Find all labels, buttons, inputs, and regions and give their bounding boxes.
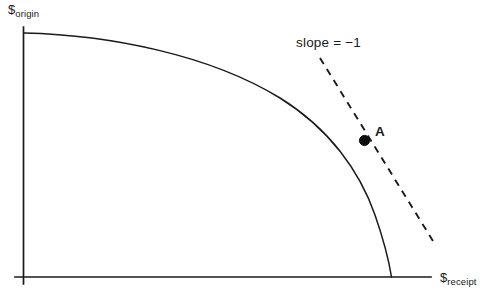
point-a-marker [359, 135, 369, 145]
slope-annotation-label: slope = −1 [296, 36, 361, 50]
frontier-chart [0, 0, 480, 298]
y-axis-label: $origin [8, 3, 39, 16]
frontier-curve [24, 33, 392, 277]
x-axis-label-subscript: receipt [447, 276, 476, 287]
x-axis-label: $receipt [440, 271, 477, 284]
figure-canvas: $origin $receipt slope = −1 A [0, 0, 480, 298]
y-axis-label-subscript: origin [15, 8, 39, 19]
tangent-line [320, 58, 433, 241]
point-a-label: A [375, 125, 385, 139]
